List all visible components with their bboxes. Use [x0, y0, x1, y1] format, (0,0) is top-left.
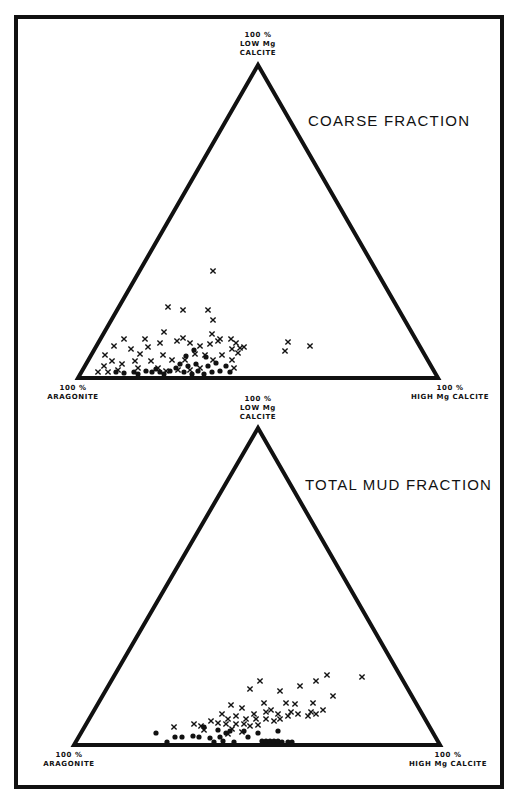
dot-marker — [177, 361, 182, 366]
cross-marker — [229, 357, 234, 362]
cross-marker — [215, 338, 220, 343]
cross-marker — [180, 307, 185, 312]
top-left-label-line1: 100 % — [38, 384, 108, 393]
dot-marker — [143, 368, 148, 373]
top-left-label-line2: ARAGONITE — [38, 393, 108, 402]
cross-marker — [119, 361, 124, 366]
cross-marker — [359, 674, 364, 679]
cross-marker — [145, 344, 150, 349]
top-apex-label-line3: CALCITE — [233, 49, 283, 58]
cross-marker — [137, 351, 142, 356]
cross-marker — [251, 711, 256, 716]
cross-marker — [275, 711, 280, 716]
cross-marker — [207, 341, 212, 346]
dot-marker — [201, 371, 206, 376]
top-plot-title: COARSE FRACTION — [308, 112, 470, 129]
dot-marker — [241, 728, 246, 733]
dot-marker — [203, 354, 208, 359]
cross-marker — [210, 317, 215, 322]
dot-marker — [220, 738, 225, 743]
cross-marker — [297, 683, 302, 688]
cross-marker — [233, 713, 238, 718]
top-apex-label: 100 % LOW Mg CALCITE — [233, 31, 283, 58]
dot-marker — [190, 733, 195, 738]
cross-marker — [132, 358, 137, 363]
cross-marker — [171, 724, 176, 729]
cross-marker — [324, 672, 329, 677]
bottom-apex-label-line1: 100 % — [233, 395, 283, 404]
dot-marker — [179, 734, 184, 739]
cross-marker — [223, 721, 228, 726]
cross-marker — [157, 340, 162, 345]
cross-marker — [283, 700, 288, 705]
cross-marker — [101, 363, 106, 368]
cross-marker — [247, 723, 252, 728]
dot-marker — [217, 368, 222, 373]
cross-marker — [209, 331, 214, 336]
cross-marker — [187, 340, 192, 345]
dot-marker — [279, 739, 284, 744]
bottom-apex-label-line2: LOW Mg — [233, 404, 283, 413]
cross-marker — [233, 721, 238, 726]
bottom-apex-label: 100 % LOW Mg CALCITE — [233, 395, 283, 422]
dot-marker — [121, 370, 126, 375]
dot-marker — [201, 724, 206, 729]
dot-marker — [181, 369, 186, 374]
cross-marker — [261, 700, 266, 705]
cross-marker — [285, 339, 290, 344]
dot-marker — [113, 369, 118, 374]
cross-marker — [228, 702, 233, 707]
dot-marker — [191, 347, 196, 352]
cross-marker — [205, 307, 210, 312]
top-apex-label-line2: LOW Mg — [233, 40, 283, 49]
cross-marker — [233, 340, 238, 345]
dot-marker — [153, 730, 158, 735]
top-right-label: 100 % HIGH Mg CALCITE — [400, 384, 500, 402]
dot-marker — [193, 361, 198, 366]
cross-marker — [229, 346, 234, 351]
cross-marker — [121, 336, 126, 341]
dot-marker — [189, 371, 194, 376]
total-mud-fraction-points — [153, 672, 364, 744]
dot-marker — [172, 734, 177, 739]
coarse-fraction-points — [95, 268, 312, 376]
dot-marker — [223, 363, 228, 368]
cross-marker — [225, 716, 230, 721]
cross-marker — [263, 709, 268, 714]
cross-marker — [313, 711, 318, 716]
dot-marker — [213, 360, 218, 365]
bottom-left-label-line2: ARAGONITE — [34, 760, 104, 769]
cross-marker — [210, 268, 215, 273]
cross-marker — [231, 365, 236, 370]
top-right-label-line2: HIGH Mg CALCITE — [400, 393, 500, 402]
dot-marker — [289, 739, 294, 744]
bottom-right-label-line1: 100 % — [398, 751, 498, 760]
cross-marker — [165, 304, 170, 309]
bottom-left-label-line1: 100 % — [34, 751, 104, 760]
cross-marker — [241, 721, 246, 726]
cross-marker — [111, 343, 116, 348]
dot-marker — [211, 739, 216, 744]
cross-marker — [239, 705, 244, 710]
cross-marker — [169, 357, 174, 362]
cross-marker — [208, 718, 213, 723]
cross-marker — [160, 352, 165, 357]
cross-marker — [277, 688, 282, 693]
cross-marker — [174, 338, 179, 343]
dot-marker — [255, 730, 260, 735]
cross-marker — [105, 369, 110, 374]
cross-marker — [295, 711, 300, 716]
cross-marker — [109, 358, 114, 363]
cross-marker — [282, 348, 287, 353]
dot-marker — [164, 739, 169, 744]
dot-marker — [135, 371, 140, 376]
cross-marker — [161, 329, 166, 334]
cross-marker — [320, 707, 325, 712]
bottom-plot-title: TOTAL MUD FRACTION — [305, 476, 492, 493]
cross-marker — [219, 352, 224, 357]
cross-marker — [243, 716, 248, 721]
dot-marker — [185, 363, 190, 368]
dot-marker — [231, 739, 236, 744]
bottom-right-label: 100 % HIGH Mg CALCITE — [398, 751, 498, 769]
cross-marker — [228, 336, 233, 341]
